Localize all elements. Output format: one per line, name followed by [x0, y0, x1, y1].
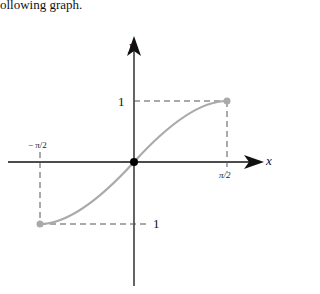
right-endpoint-marker: [224, 98, 231, 105]
y-tick-one-bottom: 1: [153, 216, 160, 232]
y-tick-one-top: 1: [118, 94, 125, 110]
tick-pi-over-2: π/2: [219, 170, 231, 180]
x-axis-label: x: [266, 153, 272, 169]
y-axis-label: y: [129, 38, 135, 54]
tick-neg-pi-over-2: − π/2: [28, 140, 47, 150]
origin-marker: [130, 158, 138, 166]
left-endpoint-marker: [37, 221, 44, 228]
